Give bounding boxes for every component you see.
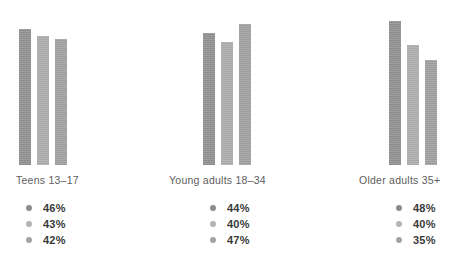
legend-dot-icon [210, 237, 216, 243]
bar-older-adults-1 [389, 21, 401, 165]
legend-item: 47% [210, 232, 250, 248]
legend-value: 35% [413, 234, 436, 246]
legend-value: 40% [227, 218, 250, 230]
group-label-young-adults: Young adults 18–34 [169, 174, 266, 186]
legend-item: 44% [210, 200, 250, 216]
legend-dot-icon [396, 205, 402, 211]
chart-group-older-adults: Older adults 35+ 48% 40% 35% [386, 0, 473, 264]
bar-teens-2 [37, 36, 49, 165]
bar-teens-3 [55, 39, 67, 165]
bar-young-adults-1 [203, 33, 215, 165]
legend-dot-icon [210, 221, 216, 227]
bar-older-adults-2 [407, 45, 419, 165]
legend-value: 44% [227, 202, 250, 214]
bar-young-adults-3 [239, 24, 251, 165]
bar-column-teens [16, 0, 156, 165]
legend-value: 48% [413, 202, 436, 214]
legend-value: 43% [43, 218, 66, 230]
legend-item: 48% [396, 200, 436, 216]
bar-column-older-adults [386, 0, 473, 165]
legend-older-adults: 48% 40% 35% [396, 200, 436, 248]
legend-dot-icon [26, 205, 32, 211]
chart-group-teens: Teens 13–17 46% 43% 42% [16, 0, 156, 264]
legend-item: 40% [210, 216, 250, 232]
bar-older-adults-3 [425, 60, 437, 165]
bar-teens-1 [19, 29, 31, 165]
legend-value: 42% [43, 234, 66, 246]
legend-young-adults: 44% 40% 47% [210, 200, 250, 248]
legend-item: 43% [26, 216, 66, 232]
legend-dot-icon [26, 221, 32, 227]
legend-dot-icon [396, 221, 402, 227]
legend-item: 40% [396, 216, 436, 232]
legend-dot-icon [210, 205, 216, 211]
bar-column-young-adults [200, 0, 350, 165]
legend-item: 46% [26, 200, 66, 216]
legend-item: 42% [26, 232, 66, 248]
group-label-older-adults: Older adults 35+ [359, 174, 440, 186]
legend-item: 35% [396, 232, 436, 248]
legend-value: 40% [413, 218, 436, 230]
legend-value: 46% [43, 202, 66, 214]
group-label-teens: Teens 13–17 [16, 174, 79, 186]
legend-value: 47% [227, 234, 250, 246]
chart-group-young-adults: Young adults 18–34 44% 40% 47% [200, 0, 350, 264]
legend-dot-icon [26, 237, 32, 243]
legend-dot-icon [396, 237, 402, 243]
grouped-bar-chart: Teens 13–17 46% 43% 42% Young adults 18–… [0, 0, 473, 264]
legend-teens: 46% 43% 42% [26, 200, 66, 248]
bar-young-adults-2 [221, 42, 233, 165]
